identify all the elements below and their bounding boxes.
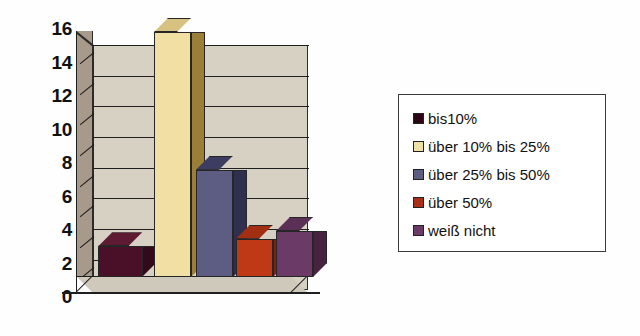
legend-item: über 10% bis 25% [413, 132, 605, 160]
legend-item-label: über 50% [428, 195, 492, 210]
bar-chart: 16 14 12 10 8 6 4 2 0 [0, 0, 380, 336]
bar-top-face [276, 217, 313, 231]
y-tick-label: 8 [62, 153, 72, 172]
bar-ueber-25-bis-50 [196, 170, 233, 277]
bar-front-face [196, 170, 233, 277]
legend-item: über 50% [413, 188, 605, 216]
bar-ueber-50 [236, 239, 273, 277]
bar-bis10 [98, 246, 142, 277]
legend-item-label: bis10% [428, 111, 477, 126]
legend-swatch-icon [413, 141, 424, 152]
bar-front-face [276, 231, 313, 277]
y-axis-labels: 16 14 12 10 8 6 4 2 0 [24, 28, 72, 296]
bar-side-face [313, 231, 327, 277]
legend-swatch-icon [413, 113, 424, 124]
y-tick-label: 16 [51, 19, 72, 38]
x-axis-line [62, 292, 320, 294]
y-axis-line [76, 31, 77, 293]
bar-ueber-10-bis-25 [154, 32, 191, 277]
bar-series [76, 31, 308, 293]
legend-swatch-icon [413, 169, 424, 180]
y-tick-label: 0 [62, 287, 72, 306]
bar-front-face [98, 246, 142, 277]
bar-top-face [154, 18, 191, 32]
y-tick-label: 2 [62, 253, 72, 272]
y-tick-label: 4 [62, 220, 72, 239]
y-tick-label: 12 [51, 86, 72, 105]
legend-item: weiß nicht [413, 216, 605, 244]
legend-swatch-icon [413, 197, 424, 208]
bar-front-face [236, 239, 273, 277]
y-tick-label: 6 [62, 186, 72, 205]
y-tick-label: 10 [51, 119, 72, 138]
chart-legend: bis10% über 10% bis 25% über 25% bis 50%… [398, 94, 606, 252]
legend-item: bis10% [413, 104, 605, 132]
legend-item-label: weiß nicht [428, 223, 496, 238]
legend-item-label: über 25% bis 50% [428, 167, 550, 182]
bar-weiss-nicht [276, 231, 313, 277]
y-tick-label: 14 [51, 52, 72, 71]
legend-item-label: über 10% bis 25% [428, 139, 550, 154]
legend-swatch-icon [413, 225, 424, 236]
bar-front-face [154, 32, 191, 277]
legend-item: über 25% bis 50% [413, 160, 605, 188]
bar-top-face [98, 232, 142, 246]
